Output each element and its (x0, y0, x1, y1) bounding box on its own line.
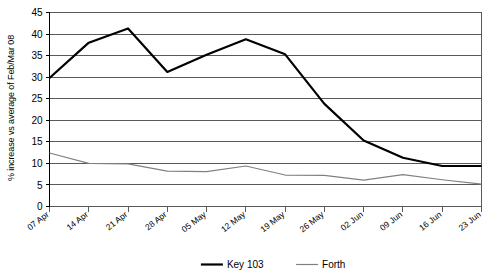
chart-canvas: 07 Apr14 Apr21 Apr28 Apr05 May12 May19 M… (0, 0, 492, 279)
y-tick-label: 25 (31, 93, 43, 104)
x-tick-label: 05 May (180, 209, 209, 235)
x-tick-label: 09 Jun (378, 209, 404, 233)
x-axis-ticks (50, 207, 482, 212)
x-tick-label: 28 Apr (143, 209, 169, 232)
x-tick-label: 14 Apr (64, 209, 90, 232)
y-tick-label: 15 (31, 136, 43, 147)
series-line-forth (50, 153, 482, 184)
x-tick-label: 23 Jun (456, 209, 482, 233)
x-axis-tick-labels: 07 Apr14 Apr21 Apr28 Apr05 May12 May19 M… (25, 209, 483, 235)
y-tick-label: 0 (37, 201, 43, 212)
y-tick-label: 5 (37, 180, 43, 191)
y-tick-label: 10 (31, 158, 43, 169)
legend-label-forth: Forth (322, 259, 345, 270)
grid-lines (50, 13, 482, 185)
line-chart: % increase vs average of Feb/Mar 08 07 A… (0, 0, 492, 279)
y-tick-label: 35 (31, 50, 43, 61)
x-tick-label: 26 May (298, 209, 327, 235)
y-tick-label: 45 (31, 7, 43, 18)
chart-legend: Key 103Forth (201, 259, 346, 270)
series-lines (50, 28, 482, 184)
plot-frame (50, 13, 482, 207)
x-tick-label: 02 Jun (339, 209, 365, 233)
legend-label-key-103: Key 103 (227, 259, 264, 270)
x-tick-label: 12 May (219, 209, 248, 235)
x-tick-label: 19 May (258, 209, 287, 235)
x-tick-label: 16 Jun (417, 209, 443, 233)
x-tick-label: 21 Apr (104, 209, 130, 232)
y-tick-label: 30 (31, 72, 43, 83)
x-tick-label: 07 Apr (25, 209, 51, 232)
y-axis-tick-labels: 051015202530354045 (31, 7, 43, 212)
y-tick-label: 20 (31, 115, 43, 126)
y-tick-label: 40 (31, 29, 43, 40)
series-line-key-103 (50, 28, 482, 166)
